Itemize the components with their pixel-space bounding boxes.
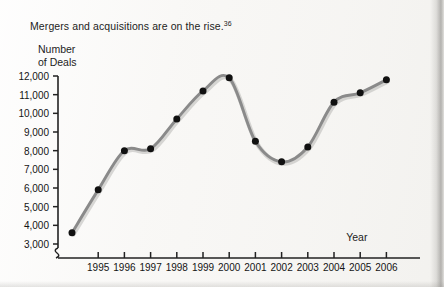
data-point-marker: 2004: 10,600 xyxy=(331,99,338,106)
x-axis-tick-label: 1995 xyxy=(87,262,109,273)
y-axis-tick-label: 5,000 xyxy=(0,201,49,212)
data-point-marker: 1996: 8,000 xyxy=(121,147,128,154)
x-axis-tick-label: 2002 xyxy=(270,262,292,273)
data-point-marker: 2003: 8,200 xyxy=(304,143,311,150)
chart-line-path xyxy=(72,75,386,232)
x-axis-tick-label: 2004 xyxy=(323,262,345,273)
y-axis-tick-label: 8,000 xyxy=(0,145,49,156)
y-axis-tick-label: 11,000 xyxy=(0,89,49,100)
x-axis-tick-label: 2000 xyxy=(218,262,240,273)
x-axis-tick-label: 1997 xyxy=(139,262,161,273)
y-axis-tick-label: 7,000 xyxy=(0,164,49,175)
data-point-marker: 1994: 3,600 xyxy=(69,229,76,236)
x-axis-tick-label: 1996 xyxy=(113,262,135,273)
y-axis-tick-label: 12,000 xyxy=(0,71,49,82)
x-axis-tick-label: 2005 xyxy=(349,262,371,273)
data-point-marker: 2001: 8,500 xyxy=(252,138,259,145)
x-axis-title: Year xyxy=(346,231,367,243)
data-point-marker: 2002: 7,400 xyxy=(278,158,285,165)
data-point-marker: 1997: 8,100 xyxy=(147,145,154,152)
x-axis-tick-label: 1998 xyxy=(166,262,188,273)
y-axis-tick-label: 10,000 xyxy=(0,108,49,119)
data-point-marker: 2005: 11,100 xyxy=(357,89,364,96)
data-point-marker: 1995: 5,900 xyxy=(95,186,102,193)
x-axis-tick-label: 2003 xyxy=(297,262,319,273)
data-point-marker: 1999: 11,200 xyxy=(200,87,207,94)
chart-page: Mergers and acquisitions are on the rise… xyxy=(0,0,444,287)
x-axis-tick-label: 2006 xyxy=(375,262,397,273)
y-axis-tick-label: 9,000 xyxy=(0,127,49,138)
x-axis-tick-label: 2001 xyxy=(244,262,266,273)
y-axis-tick-label: 6,000 xyxy=(0,183,49,194)
data-point-marker: 2006: 11,800 xyxy=(383,76,390,83)
chart-line-series xyxy=(72,75,388,234)
y-axis-tick-label: 4,000 xyxy=(0,220,49,231)
x-axis-tick-label: 1999 xyxy=(192,262,214,273)
data-point-marker: 1998: 9,700 xyxy=(173,115,180,122)
y-axis-break-symbol xyxy=(55,248,59,258)
chart-plot-area: 1994: 3,6001995: 5,9001996: 8,0001997: 8… xyxy=(0,0,444,287)
y-axis-tick-label: 3,000 xyxy=(0,239,49,250)
data-point-marker: 2000: 11,900 xyxy=(226,74,233,81)
